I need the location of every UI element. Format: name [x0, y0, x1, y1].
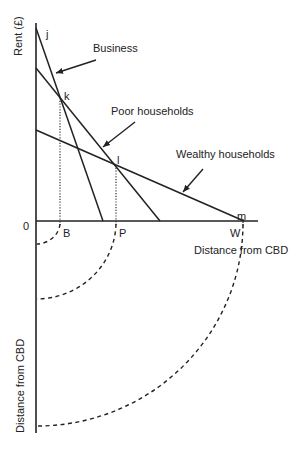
wealthy-households-label: Wealthy households: [176, 148, 275, 160]
point-m-label: m: [237, 210, 246, 222]
origin-label: 0: [23, 220, 29, 232]
bid-rent-diagram: Business Poor households Wealthy househo…: [0, 0, 296, 454]
point-k-label: k: [64, 90, 70, 102]
poor-zone-arc: [37, 224, 116, 299]
poor-households-label: Poor households: [111, 105, 194, 117]
wealthy-households-pointer-arrow: [183, 169, 203, 192]
poor-households-pointer-arrow: [103, 122, 135, 147]
marker-W-label: W: [230, 227, 241, 239]
business-pointer-arrow: [56, 60, 96, 73]
marker-P-label: P: [119, 227, 126, 239]
business-bid-rent-line: [36, 28, 103, 221]
poor-households-bid-rent-line: [36, 68, 160, 221]
business-label: Business: [93, 42, 138, 54]
wealthy-households-bid-rent-line: [36, 130, 244, 221]
x-axis-title: Distance from CBD: [194, 244, 288, 256]
point-j-label: j: [45, 28, 48, 40]
lower-y-axis-title: Distance from CBD: [14, 339, 26, 433]
point-l-label: l: [117, 154, 119, 166]
business-zone-arc: [37, 224, 60, 244]
y-axis-title: Rent (£): [12, 16, 24, 56]
marker-B-label: B: [63, 227, 70, 239]
